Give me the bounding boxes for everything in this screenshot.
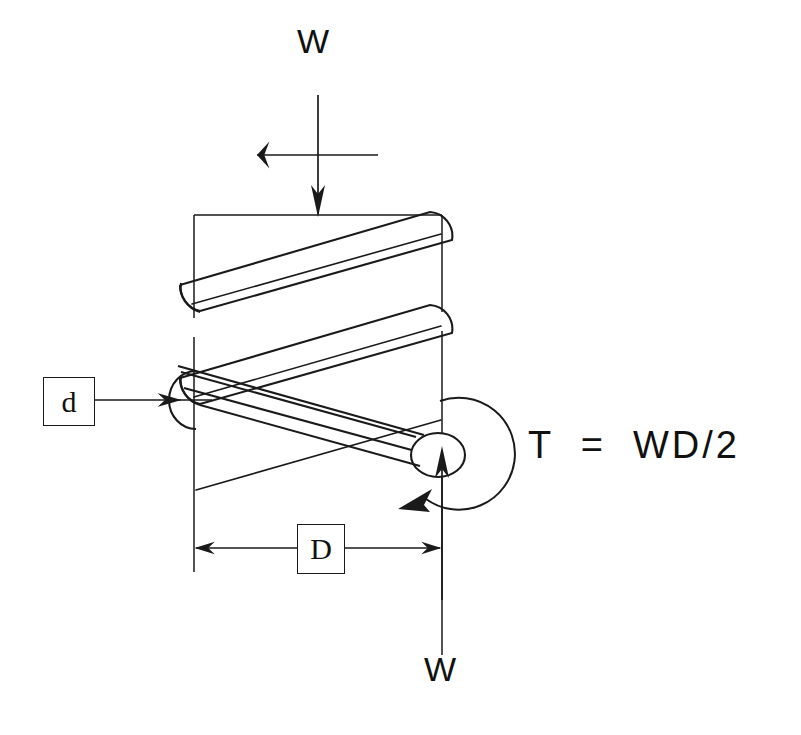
centerlines [194, 215, 442, 655]
load-label-bottom: W [424, 650, 457, 689]
spring-diagram-svg [0, 0, 801, 735]
coil-band-3 [184, 388, 430, 455]
load-label-top: W [297, 22, 330, 61]
wire-diameter-label-box: d [43, 377, 95, 426]
coil-diameter-label-text: D [310, 532, 332, 566]
spring-coils [178, 212, 452, 455]
coil-diameter-label-box: D [297, 524, 345, 574]
wire-diameter-label-text: d [62, 385, 77, 419]
left-cap-upper [181, 283, 200, 312]
coil-end-caps-left [181, 283, 200, 405]
band3-upper-edge [181, 372, 416, 437]
coil-back-lines [192, 234, 441, 490]
spring-diagram-page: W W T = WD/2 d D [0, 0, 801, 735]
torque-equation-label: T = WD/2 [528, 424, 740, 467]
